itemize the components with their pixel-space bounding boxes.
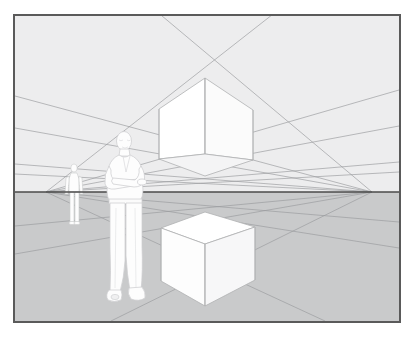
background-figure-leg-left (70, 192, 74, 222)
foreground-figure-leg-right (126, 203, 142, 291)
illustration-canvas (0, 0, 414, 337)
foreground-figure-neck (119, 149, 130, 156)
background-figure-leg-right (75, 192, 79, 222)
perspective-drawing (15, 16, 399, 321)
foreground-figure-hand (138, 179, 147, 185)
artwork-frame (13, 14, 401, 323)
background-figure-torso (69, 173, 79, 192)
foreground-figure-shoe-detail (111, 294, 119, 299)
foreground-figure-leg-left (110, 203, 125, 292)
background-figure-foot-right (74, 221, 80, 224)
background-figure-head (71, 164, 77, 172)
foreground-figure-shoe-right (128, 287, 145, 300)
